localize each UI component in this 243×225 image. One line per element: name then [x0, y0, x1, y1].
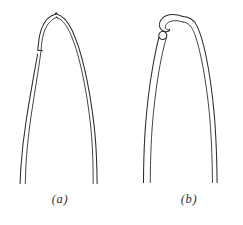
panel-b-left-prong-outer-edge — [144, 37, 159, 182]
panel-a-drawing — [20, 13, 97, 184]
panel-a-caption: (a) — [0, 192, 120, 207]
panel-a-right-prong-inner-edge — [57, 18, 93, 184]
panel-b-drawing — [144, 15, 218, 183]
panel-a-tip-apex — [55, 13, 56, 14]
panel-a-tip-inner-apex — [56, 17, 57, 18]
figure-container: (a) (b) — [0, 0, 243, 225]
panel-b-left-prong-inner-edge — [150, 38, 166, 182]
panel-b-hook-inner-curve — [165, 21, 183, 30]
panel-a-left-prong-lower-outer-edge — [20, 54, 37, 184]
panel-b-hook-outer-curve — [159, 15, 183, 32]
panel-b-caption: (b) — [135, 192, 243, 207]
panel-b-right-prong-inner-edge — [183, 22, 212, 183]
panel-a-right-prong-outer-edge — [57, 14, 98, 184]
panel-b-left-prong-knob — [159, 31, 167, 39]
